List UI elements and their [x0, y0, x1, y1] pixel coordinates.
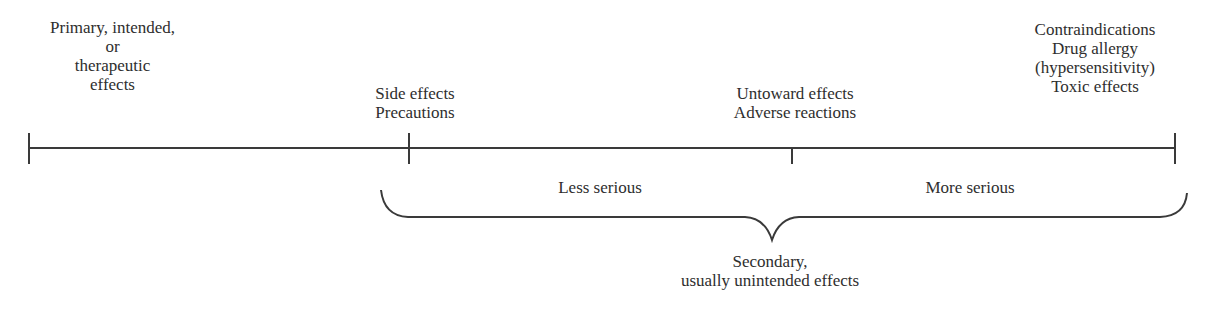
label-side-effects: Side effects Precautions — [315, 84, 515, 122]
label-secondary-effects: Secondary, usually unintended effects — [620, 252, 920, 290]
label-untoward-effects: Untoward effects Adverse reactions — [690, 84, 900, 122]
label-contraindications: Contraindications Drug allergy (hypersen… — [990, 20, 1200, 96]
brace — [381, 190, 1187, 240]
label-less-serious: Less serious — [500, 178, 700, 197]
label-more-serious: More serious — [870, 178, 1070, 197]
label-primary-effects: Primary, intended, or therapeutic effect… — [15, 18, 210, 94]
